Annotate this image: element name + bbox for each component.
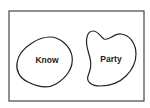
universe-rectangle: [9, 11, 144, 101]
set-party-label: Party: [100, 54, 122, 64]
set-know-label: Know: [35, 55, 59, 65]
venn-diagram: Know Party: [0, 0, 150, 108]
